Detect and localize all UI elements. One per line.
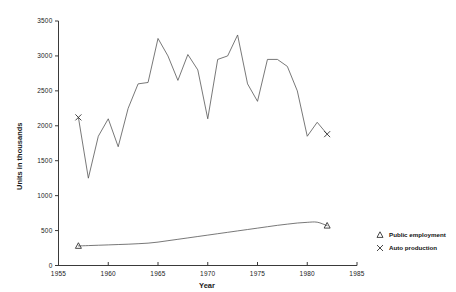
- series-auto-production: [75, 35, 330, 178]
- y-axis-ticks: 0500100015002000250030003500: [37, 17, 58, 269]
- y-tick-label: 0: [49, 262, 53, 269]
- y-tick-label: 3500: [37, 17, 52, 24]
- x-tick-label: 1985: [349, 270, 364, 277]
- x-axis-title: Year: [199, 281, 215, 290]
- legend-item-auto-production[interactable]: Auto production: [377, 244, 437, 251]
- series-line: [78, 222, 327, 246]
- line-chart: 0500100015002000250030003500 Units in th…: [0, 0, 456, 292]
- x-tick-label: 1980: [300, 270, 315, 277]
- x-tick-label: 1975: [250, 270, 265, 277]
- x-axis-ticks: 1955196019651970197519801985: [51, 262, 365, 277]
- y-axis-title: Units in thousands: [15, 123, 24, 191]
- y-tick-label: 1500: [37, 157, 52, 164]
- y-tick-label: 500: [41, 227, 53, 234]
- series-layer: [75, 35, 330, 248]
- x-axis: 1955196019651970197519801985 Year: [51, 262, 365, 290]
- y-tick-label: 2000: [37, 122, 52, 129]
- x-tick-label: 1955: [51, 270, 66, 277]
- x-tick-label: 1965: [150, 270, 165, 277]
- series-line: [78, 35, 327, 178]
- y-axis: 0500100015002000250030003500 Units in th…: [15, 17, 59, 269]
- x-marker: [324, 131, 330, 137]
- y-tick-label: 2500: [37, 87, 52, 94]
- legend-item-public-employment[interactable]: Public employment: [377, 231, 446, 238]
- triangle-marker: [377, 232, 383, 238]
- series-public-employment: [75, 222, 330, 248]
- chart-legend: Public employmentAuto production: [377, 231, 446, 251]
- legend-label: Auto production: [389, 244, 437, 251]
- x-tick-label: 1960: [101, 270, 116, 277]
- legend-label: Public employment: [389, 231, 446, 238]
- y-tick-label: 1000: [37, 192, 52, 199]
- x-tick-label: 1970: [200, 270, 215, 277]
- chart-container: 0500100015002000250030003500 Units in th…: [0, 0, 456, 292]
- y-tick-label: 3000: [37, 52, 52, 59]
- x-marker: [377, 245, 383, 251]
